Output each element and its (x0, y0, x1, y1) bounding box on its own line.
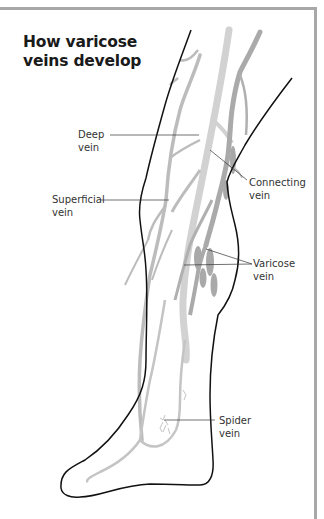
spider-vein (160, 415, 170, 434)
leg-outline-front (61, 30, 191, 497)
varicose-leader-2 (184, 264, 252, 265)
caption-text (16, 508, 306, 519)
label-superficial-vein: Superficial vein (52, 193, 105, 219)
label-spider-vein: Spider vein (219, 414, 251, 440)
varicose-vein (206, 32, 260, 245)
label-connecting-vein: Connecting vein (249, 176, 306, 202)
label-varicose-vein: Varicose vein (253, 257, 295, 283)
label-deep-vein: Deep vein (78, 128, 104, 154)
